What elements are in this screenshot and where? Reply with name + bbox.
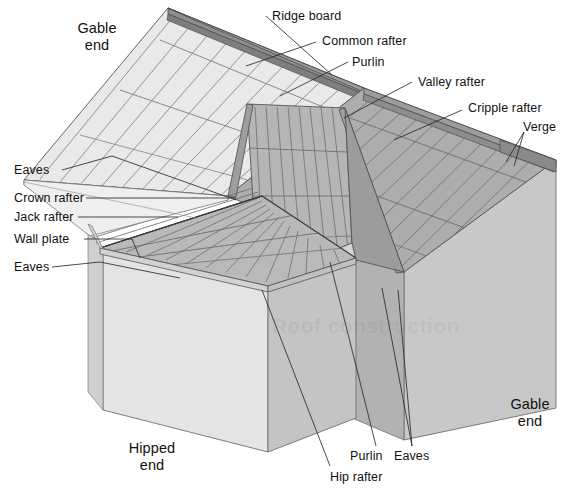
- label-ridge-board: Ridge board: [272, 9, 341, 23]
- label-valley-rafter: Valley rafter: [418, 75, 485, 89]
- label-eaves-lower: Eaves: [14, 260, 49, 274]
- hipped-end-line1: Hipped: [129, 440, 176, 456]
- label-eaves-upper: Eaves: [14, 163, 49, 177]
- label-gable-end-left: Gable end: [52, 20, 142, 54]
- label-gable-end-right: Gable end: [494, 396, 566, 430]
- hipped-end-line2: end: [140, 457, 165, 473]
- label-hip-rafter: Hip rafter: [330, 470, 382, 484]
- gable-end-right-line2: end: [518, 413, 543, 429]
- label-wall-plate: Wall plate: [14, 232, 69, 246]
- roof-illustration: [0, 0, 572, 496]
- gable-end-left-line2: end: [85, 37, 110, 53]
- label-purlin-top: Purlin: [352, 55, 385, 69]
- label-verge: Verge: [523, 120, 556, 134]
- front-right-wall: [268, 260, 356, 452]
- label-eaves-bottom: Eaves: [394, 449, 429, 463]
- gable-end-right-line1: Gable: [510, 396, 549, 412]
- label-common-rafter: Common rafter: [322, 34, 407, 48]
- label-cripple-rafter: Cripple rafter: [468, 101, 542, 115]
- gable-end-left-line1: Gable: [77, 20, 116, 36]
- label-purlin-bottom: Purlin: [350, 449, 383, 463]
- label-hipped-end: Hipped end: [106, 440, 198, 474]
- label-jack-rafter: Jack rafter: [14, 210, 73, 224]
- watermark-text: Roof construction: [272, 314, 460, 338]
- label-crown-rafter: Crown rafter: [14, 191, 84, 205]
- roof-diagram: Gable end Ridge board Common rafter Purl…: [0, 0, 572, 496]
